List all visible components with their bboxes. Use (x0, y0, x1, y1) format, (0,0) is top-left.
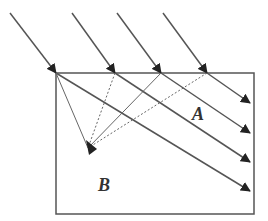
incident-ray-3 (117, 13, 161, 73)
ray-diagram (0, 0, 268, 221)
converging-line-4 (88, 73, 207, 148)
transmitted-ray-4 (56, 73, 250, 191)
transmitted-ray-3 (115, 73, 250, 162)
region-a-label: A (192, 105, 204, 123)
transmitted-ray-2 (161, 73, 250, 133)
converging-line-1 (56, 73, 88, 148)
region-b-label: B (98, 176, 110, 194)
transmitted-rays (56, 73, 250, 191)
focal-point-arrow-icon (86, 140, 97, 155)
transmitted-ray-1 (207, 73, 250, 103)
incident-ray-4 (163, 13, 207, 73)
incident-ray-2 (72, 13, 115, 73)
converging-line-2 (88, 73, 115, 148)
converging-line-3 (88, 73, 161, 148)
incident-rays (10, 13, 207, 73)
incident-ray-1 (10, 13, 56, 73)
